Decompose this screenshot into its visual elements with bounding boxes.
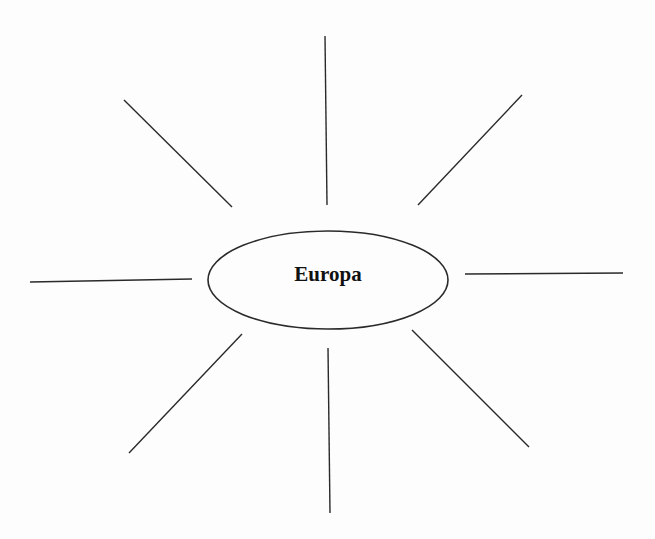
branch-top — [325, 36, 327, 205]
mind-map-canvas: Europa — [0, 0, 655, 539]
branch-top-right — [418, 95, 522, 205]
branch-bottom — [328, 348, 330, 513]
branch-left — [30, 279, 192, 282]
branch-bottom-right — [412, 330, 529, 447]
center-node-label: Europa — [208, 262, 448, 287]
branch-top-left — [124, 100, 232, 207]
branch-bottom-left — [129, 334, 242, 453]
branch-right — [465, 273, 623, 274]
